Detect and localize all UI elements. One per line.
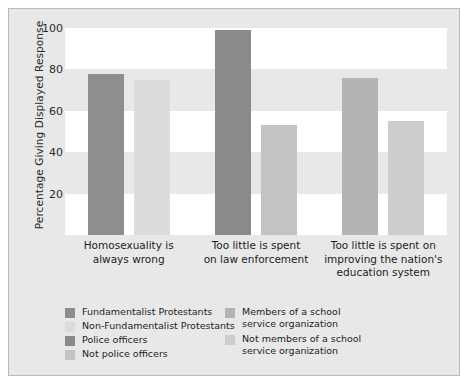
bar-1 bbox=[134, 80, 170, 235]
category-label-line: always wrong bbox=[65, 253, 192, 267]
legend-swatch-icon bbox=[65, 322, 75, 332]
y-tick-label-40: 40 bbox=[23, 146, 63, 159]
category-label-line: Too little is spent bbox=[192, 239, 319, 253]
category-label-line: improving the nation's bbox=[320, 253, 447, 267]
category-label-2: Too little is spent onimproving the nati… bbox=[320, 239, 447, 280]
bar-5 bbox=[388, 121, 424, 235]
legend-swatch-icon bbox=[225, 308, 235, 318]
bar-4 bbox=[342, 78, 378, 235]
legend-swatch-icon bbox=[65, 336, 75, 346]
legend-item[interactable]: Not members of a schoolservice organizat… bbox=[225, 333, 415, 356]
chart-legend: Fundamentalist ProtestantsNon-Fundamenta… bbox=[65, 306, 455, 368]
y-axis-tick-labels: 20406080100 bbox=[23, 9, 63, 377]
legend-swatch-icon bbox=[65, 308, 75, 318]
y-tick-label-20: 20 bbox=[23, 187, 63, 200]
category-label-line: on law enforcement bbox=[192, 253, 319, 267]
y-tick-label-100: 100 bbox=[23, 22, 63, 35]
legend-label: Not members of a school bbox=[242, 333, 415, 345]
y-tick-label-60: 60 bbox=[23, 104, 63, 117]
legend-label: service organization bbox=[242, 345, 415, 357]
legend-label: service organization bbox=[242, 318, 415, 330]
category-label-0: Homosexuality isalways wrong bbox=[65, 239, 192, 266]
category-label-1: Too little is spenton law enforcement bbox=[192, 239, 319, 266]
bar-2 bbox=[215, 30, 251, 235]
legend-column-right: Members of a schoolservice organizationN… bbox=[225, 306, 415, 360]
plot-area bbox=[65, 28, 447, 235]
bar-3 bbox=[261, 125, 297, 235]
bar-series-container bbox=[65, 28, 447, 235]
bar-0 bbox=[88, 74, 124, 235]
legend-item[interactable]: Members of a schoolservice organization bbox=[225, 306, 415, 329]
category-label-line: Homosexuality is bbox=[65, 239, 192, 253]
category-label-line: education system bbox=[320, 266, 447, 280]
legend-label: Members of a school bbox=[242, 306, 415, 318]
legend-swatch-icon bbox=[225, 335, 235, 345]
chart-figure: Percentage Giving Displayed Response 204… bbox=[8, 8, 460, 376]
legend-swatch-icon bbox=[65, 350, 75, 360]
category-label-line: Too little is spent on bbox=[320, 239, 447, 253]
y-tick-label-80: 80 bbox=[23, 63, 63, 76]
x-axis-category-labels: Homosexuality isalways wrongToo little i… bbox=[65, 239, 447, 297]
